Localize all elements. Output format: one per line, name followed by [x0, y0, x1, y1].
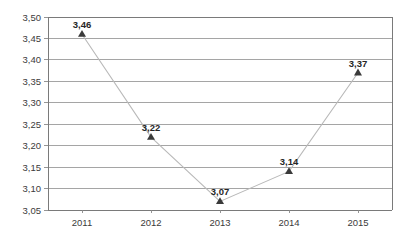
- y-axis-tick-label: 3,40: [23, 54, 42, 65]
- data-point-label: 3,22: [142, 122, 161, 133]
- x-axis-labels: 2011 2012 2013 2014 2015: [72, 217, 369, 228]
- data-point-label: 3,07: [211, 186, 230, 197]
- y-axis-tick-label: 3,45: [23, 33, 42, 44]
- data-point-label: 3,14: [280, 156, 299, 167]
- y-axis-tick-label: 3,20: [23, 140, 42, 151]
- x-axis-tick-label: 2012: [140, 217, 161, 228]
- y-axis-tick-label: 3,35: [23, 76, 42, 87]
- y-axis-tick-label: 3,10: [23, 183, 42, 194]
- data-point-label: 3,46: [73, 19, 92, 30]
- y-axis-tick-label: 3,15: [23, 162, 42, 173]
- data-point-label: 3,37: [349, 58, 368, 69]
- chart-canvas: 3,50 3,45 3,40 3,35 3,30 3,25 3,20 3,15 …: [0, 0, 410, 239]
- y-axis-labels: 3,50 3,45 3,40 3,35 3,30 3,25 3,20 3,15 …: [23, 12, 42, 216]
- plot-area-background: [48, 17, 392, 210]
- y-axis-tick-label: 3,05: [23, 205, 42, 216]
- y-axis-tick-label: 3,50: [23, 12, 42, 23]
- y-axis-tick-label: 3,25: [23, 119, 42, 130]
- y-axis-tick-label: 3,30: [23, 97, 42, 108]
- x-axis-tick-label: 2013: [209, 217, 230, 228]
- x-axis-tick-label: 2011: [72, 217, 92, 228]
- line-chart: 3,50 3,45 3,40 3,35 3,30 3,25 3,20 3,15 …: [0, 0, 410, 239]
- x-axis-tick-label: 2015: [347, 217, 368, 228]
- x-axis-tick-label: 2014: [278, 217, 299, 228]
- y-tick-marks: [44, 17, 48, 210]
